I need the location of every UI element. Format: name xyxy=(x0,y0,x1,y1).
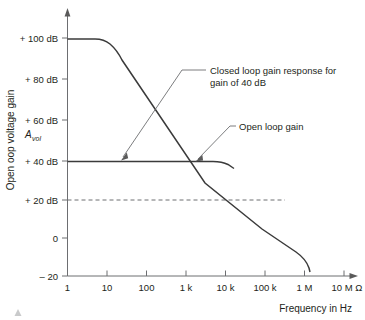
closed-loop-annotation: Closed loop gain response for gain of 40… xyxy=(121,65,336,161)
x-tick-label-10M: 10 M Ω xyxy=(332,282,363,293)
corner-mark-icon xyxy=(15,309,22,316)
x-tick-marks xyxy=(68,271,345,277)
bode-plot-figure: Open oop voltage gain + 100 dB + 80 dB +… xyxy=(0,0,365,320)
avol-symbol: A vol xyxy=(24,129,41,142)
closed-loop-annotation-line2: gain of 40 dB xyxy=(210,77,266,88)
closed-loop-gain-curve xyxy=(68,162,235,169)
y-tick-label-20: + 20 dB xyxy=(25,195,58,206)
y-tick-marks xyxy=(62,38,68,276)
y-tick-label-60: + 60 dB xyxy=(25,115,58,126)
x-tick-label-1: 1 xyxy=(65,282,70,293)
x-tick-label-10: 10 xyxy=(102,282,113,293)
y-tick-label-100: + 100 dB xyxy=(20,33,58,44)
y-axis-title: Open oop voltage gain xyxy=(5,90,16,191)
open-loop-arrow-icon xyxy=(196,155,204,162)
y-tick-label-40: + 40 dB xyxy=(25,156,58,167)
y-tick-label-0: 0 xyxy=(53,233,58,244)
x-tick-label-10k: 10 k xyxy=(217,282,235,293)
avol-main-letter: A xyxy=(24,129,32,140)
closed-loop-annotation-line1: Closed loop gain response for xyxy=(210,65,336,76)
open-loop-annotation: Open loop gain xyxy=(196,121,304,162)
y-axis-arrow-icon xyxy=(65,8,71,17)
y-tick-label-80: + 80 dB xyxy=(25,74,58,85)
x-tick-label-1M: 1 M xyxy=(297,282,313,293)
plot-svg: Open oop voltage gain + 100 dB + 80 dB +… xyxy=(0,0,365,320)
x-tick-label-100k: 100 k xyxy=(253,282,276,293)
open-loop-annotation-line1: Open loop gain xyxy=(239,121,303,132)
x-tick-label-1k: 1 k xyxy=(180,282,193,293)
avol-subscript: vol xyxy=(32,135,41,142)
x-axis-title: Frequency in Hz xyxy=(279,303,352,314)
closed-loop-arrow-icon xyxy=(121,153,128,161)
x-tick-label-100: 100 xyxy=(139,282,155,293)
x-axis-arrow-icon xyxy=(350,273,359,279)
y-tick-label-minus-20: – 20 xyxy=(40,271,59,282)
